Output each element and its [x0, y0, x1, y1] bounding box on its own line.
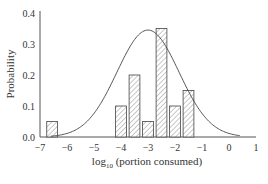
x-tick-label: −4 — [116, 142, 127, 153]
histogram-bar — [116, 106, 127, 137]
y-axis: 0.00.10.20.30.4 Probability — [4, 8, 40, 143]
x-axis-label: log10 (portion consumed) — [92, 155, 203, 170]
x-axis: −7−6−5−4−3−2−101 log10 (portion consumed… — [35, 137, 259, 170]
histogram-bar — [47, 122, 58, 138]
histogram-bars — [47, 29, 194, 138]
x-tick-label: 1 — [254, 142, 259, 153]
x-tick-label: −3 — [143, 142, 154, 153]
y-tick-label: 0.4 — [23, 8, 36, 19]
x-tick-label: −2 — [170, 142, 181, 153]
y-tick-label: 0.0 — [23, 132, 36, 143]
y-tick-label: 0.1 — [23, 101, 36, 112]
x-tick-label: −6 — [62, 142, 73, 153]
y-tick-label: 0.2 — [23, 70, 36, 81]
histogram-bar — [143, 122, 154, 138]
x-tick-labels: −7−6−5−4−3−2−101 — [35, 142, 259, 153]
x-axis-label-rest: (portion consumed) — [113, 155, 203, 168]
histogram-bar — [129, 75, 140, 137]
x-tick-label: −7 — [35, 142, 46, 153]
y-tick-labels: 0.00.10.20.30.4 — [23, 8, 36, 143]
fitted-curve — [51, 30, 240, 136]
histogram-bar — [170, 106, 181, 137]
x-axis-label-log: log — [92, 155, 107, 167]
histogram-chart: 0.00.10.20.30.4 Probability −7−6−5−4−3−2… — [0, 0, 268, 184]
x-tick-label: −5 — [89, 142, 100, 153]
x-tick-label: −1 — [197, 142, 208, 153]
y-tick-label: 0.3 — [23, 39, 36, 50]
x-tick-label: 0 — [227, 142, 232, 153]
y-axis-label: Probability — [4, 49, 16, 98]
